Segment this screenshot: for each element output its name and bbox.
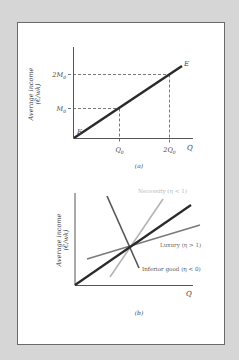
panel-a-x-axis-label: Q bbox=[187, 144, 193, 152]
panel-b-inferior-label: Inferior good (η < 0) bbox=[142, 266, 201, 273]
panel-a-curve-label-end: E bbox=[183, 60, 189, 68]
svg-text:(€/wk): (€/wk) bbox=[62, 229, 70, 250]
figure-svg: E E 2M0 M0 Q0 2Q0 Q (a) Average income (… bbox=[0, 0, 239, 360]
panel-a-tick-q0: Q0 bbox=[115, 146, 123, 155]
panel-a-caption: (a) bbox=[135, 162, 144, 169]
panel-a-engel-curve bbox=[74, 66, 182, 138]
panel-a-tick-2m0: 2M0 bbox=[51, 71, 66, 80]
panel-b-caption: (b) bbox=[135, 309, 144, 316]
panel-a-tick-2q0: 2Q0 bbox=[162, 146, 175, 155]
panel-a-tick-m0: M0 bbox=[55, 105, 66, 114]
svg-text:(€/wk): (€/wk) bbox=[34, 83, 42, 104]
panel-b-x-axis-label: Q bbox=[186, 290, 192, 298]
panel-b-necessity-label: Necessity (η < 1) bbox=[138, 188, 187, 195]
panel-a: E E 2M0 M0 Q0 2Q0 Q (a) Average income (… bbox=[27, 47, 193, 169]
panel-a-curve-label-start: E bbox=[76, 128, 82, 136]
panel-b: Necessity (η < 1) Luxury (η > 1) Inferio… bbox=[55, 188, 201, 316]
panel-b-luxury-label: Luxury (η > 1) bbox=[160, 242, 201, 249]
panel-a-y-axis-label: Average income (€/wk) bbox=[27, 67, 42, 121]
panel-b-y-axis-label: Average income (€/wk) bbox=[55, 213, 70, 267]
